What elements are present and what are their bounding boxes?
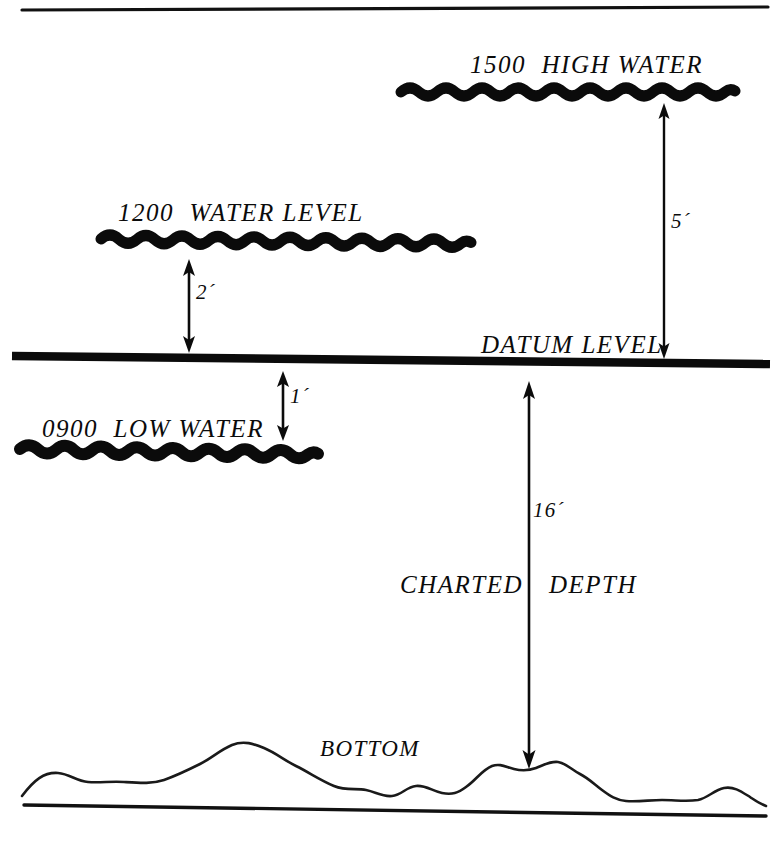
top-border-rule xyxy=(22,7,768,10)
charted-depth-label-left: CHARTED xyxy=(400,572,523,597)
dimension-arrow-2ft xyxy=(183,259,195,353)
dimension-arrow-5ft xyxy=(659,103,670,359)
bottom-border-rule xyxy=(24,805,766,816)
dimension-arrow-16ft xyxy=(523,381,536,769)
bottom-label: BOTTOM xyxy=(320,737,420,760)
charted-depth-label-right: DEPTH xyxy=(549,572,637,597)
dimension-arrow-1ft xyxy=(277,371,289,441)
water-level-line xyxy=(101,235,471,248)
dimension-label-2ft: 2´ xyxy=(196,282,216,303)
low-water-label: 0900 LOW WATER xyxy=(42,416,264,441)
dimension-label-5ft: 5´ xyxy=(671,211,691,232)
tidal-datum-diagram: 1500 HIGH WATER 1200 WATER LEVEL DATUM L… xyxy=(0,0,776,859)
dimension-label-1ft: 1´ xyxy=(290,386,310,407)
datum-level-label: DATUM LEVEL xyxy=(481,332,663,357)
water-level-label: 1200 WATER LEVEL xyxy=(118,200,364,225)
low-water-line xyxy=(20,445,318,459)
high-water-label: 1500 HIGH WATER xyxy=(470,52,703,77)
high-water-line xyxy=(401,88,735,96)
dimension-label-16ft: 16´ xyxy=(533,500,565,521)
